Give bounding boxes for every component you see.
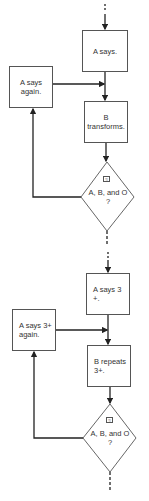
start-box: A says. [82, 30, 128, 72]
decision-text-line2: ? [80, 197, 136, 206]
approx-icon: ≈ [106, 417, 113, 423]
middle-box-label: B repeats 3+. [94, 357, 128, 375]
start-box-label: A says 3 +. [93, 285, 127, 303]
side-box: A says 3+ again. [12, 309, 56, 351]
decision-text-line1: A, B, and O [82, 429, 138, 438]
approx-icon: ≈ [103, 176, 110, 182]
middle-box: B transforms. [84, 101, 128, 143]
side-box: A says again. [9, 66, 53, 108]
decision-text-line2: ? [82, 438, 138, 447]
start-box-label: A says. [93, 47, 117, 56]
side-box-label: A says 3+ again. [19, 321, 53, 339]
middle-box-label: B transforms. [87, 113, 125, 131]
decision-text-line1: A, B, and O [80, 188, 136, 197]
decision-label: A, B, and O ? [80, 188, 136, 206]
decision-label: A, B, and O ? [82, 429, 138, 447]
middle-box: B repeats 3+. [87, 345, 131, 387]
side-box-label: A says again. [12, 78, 50, 96]
start-box: A says 3 +. [86, 273, 130, 315]
